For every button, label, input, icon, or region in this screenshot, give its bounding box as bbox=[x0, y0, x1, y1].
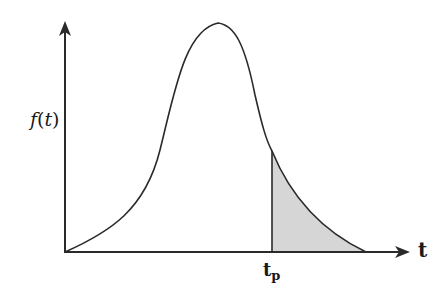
x-axis-label: t bbox=[418, 238, 427, 262]
y-axis-label: f(t) bbox=[30, 108, 60, 130]
density-curve bbox=[65, 23, 366, 252]
shaded-tail-area bbox=[272, 151, 366, 252]
density-diagram bbox=[0, 0, 444, 302]
tp-label: tp bbox=[263, 259, 280, 283]
